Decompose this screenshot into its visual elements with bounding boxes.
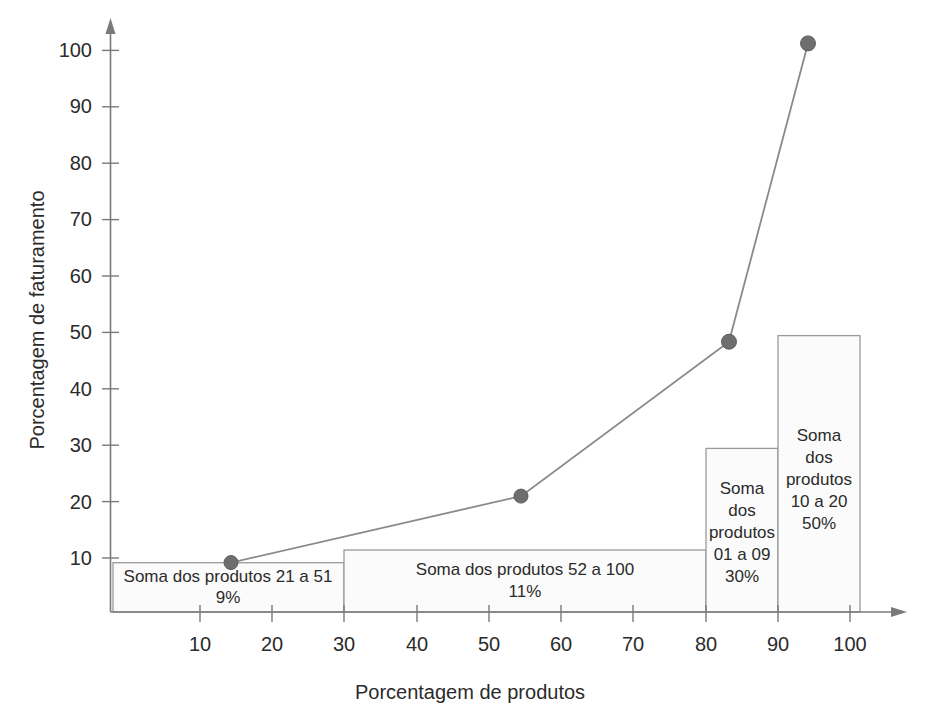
data-point-1 — [224, 556, 238, 570]
data-point-2 — [514, 489, 528, 503]
y-tick-label-10: 10 — [70, 547, 92, 569]
x-tick-label-100: 100 — [833, 633, 866, 655]
y-tick-label-70: 70 — [70, 208, 92, 230]
x-tick-label-50: 50 — [478, 633, 500, 655]
bar-01-09-label-line1: Soma — [720, 479, 765, 498]
y-axis-title: Porcentagem de faturamento — [26, 190, 48, 449]
bar-01-09-label-line4: 01 a 09 — [714, 545, 771, 564]
bar-21-51-label-line2: 9% — [216, 588, 241, 607]
x-tick-label-20: 20 — [261, 633, 283, 655]
x-axis-title: Porcentagem de produtos — [355, 681, 585, 703]
bar-10-20-label-line2: dos — [805, 448, 832, 467]
x-tick-label-70: 70 — [622, 633, 644, 655]
y-tick-label-90: 90 — [70, 95, 92, 117]
x-tick-label-80: 80 — [695, 633, 717, 655]
bar-01-09-label-line2: dos — [728, 501, 755, 520]
x-tick-label-40: 40 — [406, 633, 428, 655]
y-tick-label-20: 20 — [70, 491, 92, 513]
pareto-chart: 100 90 80 70 60 50 40 30 20 10 — [0, 0, 929, 723]
x-tick-labels: 10 20 30 40 50 60 70 80 90 100 — [189, 633, 867, 655]
x-tick-label-30: 30 — [333, 633, 355, 655]
data-point-3 — [722, 334, 737, 349]
bar-01-09-label-line3: produtos — [709, 523, 775, 542]
bar-01-09-label-line5: 30% — [725, 567, 759, 586]
x-tick-label-90: 90 — [767, 633, 789, 655]
bar-10-20-label-line4: 10 a 20 — [791, 492, 848, 511]
bar-52-100-label-line1: Soma dos produtos 52 a 100 — [416, 560, 634, 579]
y-axis-arrow-icon — [106, 18, 116, 34]
y-tick-labels: 100 90 80 70 60 50 40 30 20 10 — [59, 39, 92, 569]
y-tick-label-50: 50 — [70, 321, 92, 343]
y-tick-label-40: 40 — [70, 378, 92, 400]
data-point-4 — [801, 36, 816, 51]
y-tick-label-30: 30 — [70, 434, 92, 456]
bar-10-20-label-line5: 50% — [802, 514, 836, 533]
x-tick-label-10: 10 — [189, 633, 211, 655]
bar-52-100-label-line2: 11% — [509, 582, 542, 601]
y-tick-label-80: 80 — [70, 152, 92, 174]
bar-10-20-label-line1: Soma — [797, 426, 842, 445]
y-tick-label-100: 100 — [59, 39, 92, 61]
bar-10-20-label-line3: produtos — [786, 470, 852, 489]
chart-canvas: 100 90 80 70 60 50 40 30 20 10 — [0, 0, 929, 723]
x-tick-label-60: 60 — [550, 633, 572, 655]
y-tick-label-60: 60 — [70, 265, 92, 287]
bar-21-51-label-line1: Soma dos produtos 21 a 51 — [124, 567, 333, 586]
x-axis-arrow-icon — [891, 607, 907, 617]
